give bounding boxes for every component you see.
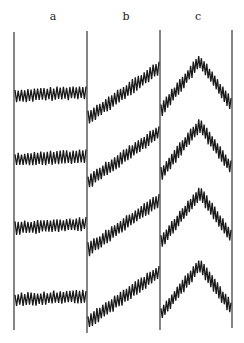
waveform-trace (88, 266, 159, 327)
waveform-trace (15, 87, 86, 103)
waveform-trace (15, 150, 86, 166)
waveform-trace (161, 188, 231, 247)
waveform-trace (88, 126, 159, 187)
waveform-trace (88, 62, 159, 124)
waveform-trace (88, 194, 159, 256)
waveform-trace (161, 119, 231, 179)
waveform-figure (0, 0, 244, 343)
waveform-trace (161, 261, 231, 318)
waveform-trace (161, 56, 231, 116)
waveform-trace (15, 290, 86, 306)
waveform-trace (15, 217, 86, 235)
